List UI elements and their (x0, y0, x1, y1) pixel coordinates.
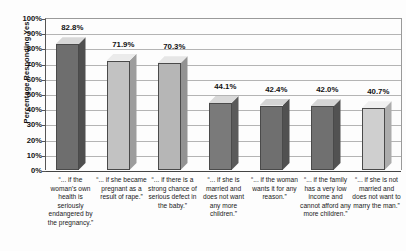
bar-group[interactable]: 82.8% (56, 37, 86, 170)
bar-side-face (334, 99, 341, 170)
bar-front-face (260, 106, 283, 170)
bar-group[interactable]: 71.9% (107, 54, 137, 170)
x-axis-category-label: “... if the family has a very low income… (300, 176, 351, 219)
y-axis-tickmark (42, 171, 46, 172)
bar-group[interactable]: 42.0% (311, 99, 341, 170)
y-axis-tick-label: 20% (8, 135, 42, 144)
y-axis-tick-label: 70% (8, 59, 42, 68)
bar[interactable] (362, 101, 392, 170)
bar-chart: Percentage Responding Yes 100%90%80%70%6… (0, 0, 406, 251)
bar-side-face (130, 54, 137, 170)
x-axis-category-label: “... if she became pregnant as a result … (96, 176, 147, 202)
bar[interactable] (209, 96, 239, 170)
bar[interactable] (158, 56, 188, 170)
bar[interactable] (56, 37, 86, 170)
bar-front-face (107, 61, 130, 170)
y-axis-tick-labels: 100%90%80%70%60%50%40%30%20%10%0% (8, 18, 42, 170)
x-axis-category-labels: “... if the woman’s own health is seriou… (45, 176, 402, 250)
y-axis-tick-label: 60% (8, 74, 42, 83)
bar-value-label: 40.7% (367, 87, 389, 96)
bar[interactable] (107, 54, 137, 170)
x-axis-category-label: “... if the woman’s own health is seriou… (45, 176, 96, 228)
bar[interactable] (260, 99, 290, 170)
bar-value-label: 71.9% (112, 40, 134, 49)
bar-side-face (181, 56, 188, 170)
bar-front-face (311, 106, 334, 170)
bar-group[interactable]: 70.3% (158, 56, 188, 170)
bar-front-face (209, 103, 232, 170)
bar-value-label: 42.0% (316, 85, 338, 94)
bar-group[interactable]: 42.4% (260, 99, 290, 170)
bar-front-face (56, 44, 79, 170)
bar-front-face (362, 108, 385, 170)
bar-side-face (283, 99, 290, 170)
y-axis-tick-label: 80% (8, 44, 42, 53)
x-axis-category-label: “... if there is a strong chance of seri… (147, 176, 198, 210)
y-axis-tick-label: 100% (8, 14, 42, 23)
bars-layer: 82.8%71.9%70.3%44.1%42.4%42.0%40.7% (45, 18, 402, 170)
bar-value-label: 44.1% (214, 82, 236, 91)
bar-side-face (385, 101, 392, 170)
x-axis-category-label: “... if she is married and does not want… (198, 176, 249, 219)
y-axis-tick-label: 40% (8, 105, 42, 114)
bar-front-face (158, 63, 181, 170)
y-axis-tick-label: 50% (8, 90, 42, 99)
bar-value-label: 42.4% (265, 85, 287, 94)
x-axis-category-label: “... if the woman wants it for any reaso… (249, 176, 300, 202)
y-axis-tick-label: 0% (8, 166, 42, 175)
bar-group[interactable]: 40.7% (362, 101, 392, 170)
y-axis-tick-label: 30% (8, 120, 42, 129)
x-axis-category-label: “... if she is not married and does not … (351, 176, 402, 210)
bar-side-face (232, 96, 239, 170)
bar[interactable] (311, 99, 341, 170)
bar-group[interactable]: 44.1% (209, 96, 239, 170)
axis-baseline (46, 171, 401, 172)
y-axis-tick-label: 90% (8, 29, 42, 38)
y-axis-tick-label: 10% (8, 150, 42, 159)
bar-value-label: 70.3% (163, 42, 185, 51)
bar-side-face (79, 37, 86, 170)
bar-value-label: 82.8% (61, 23, 83, 32)
